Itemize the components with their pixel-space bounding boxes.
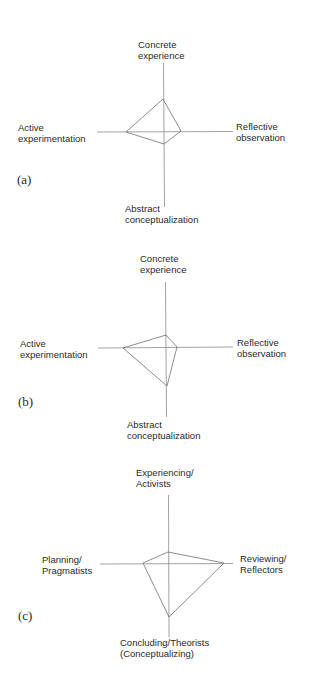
label-line: experimentation — [20, 349, 88, 360]
profile-polygon-b — [123, 335, 177, 386]
panel-letter-a: (a) — [17, 172, 31, 188]
label-line: Experiencing/ — [136, 467, 194, 478]
label-line: experimentation — [18, 133, 86, 144]
label-line: Active — [20, 338, 88, 349]
label-bottom-c: Concluding/Theorists (Conceptualizing) — [120, 637, 209, 659]
label-top-c: Experiencing/ Activists — [136, 467, 194, 489]
label-line: Concluding/Theorists — [120, 637, 209, 648]
label-line: Abstract — [127, 419, 200, 430]
label-bottom-b: Abstract conceptualization — [127, 419, 200, 441]
panel-letter-c: (c) — [18, 608, 32, 624]
label-right-c: Reviewing/ Reflectors — [240, 553, 286, 575]
label-left-b: Active experimentation — [20, 338, 88, 360]
profile-polygon-a — [126, 99, 181, 144]
label-line: Pragmatists — [42, 565, 92, 576]
label-line: Reviewing/ — [240, 553, 286, 564]
label-line: experience — [140, 264, 186, 275]
label-left-c: Planning/ Pragmatists — [42, 554, 92, 576]
label-bottom-a: Abstract conceptualization — [125, 203, 198, 225]
label-line: Reflective — [236, 121, 285, 132]
label-line: observation — [237, 348, 286, 359]
label-line: Abstract — [125, 203, 198, 214]
label-right-a: Reflective observation — [236, 121, 285, 143]
vertical-axis-a — [164, 63, 165, 207]
panel-letter-b: (b) — [18, 394, 33, 410]
label-right-b: Reflective observation — [237, 337, 286, 359]
label-line: conceptualization — [125, 214, 198, 225]
profile-polygon-c — [143, 552, 224, 617]
label-line: Activists — [136, 478, 194, 489]
label-line: Concrete — [140, 253, 186, 264]
label-line: Planning/ — [42, 554, 92, 565]
label-line: conceptualization — [127, 430, 200, 441]
label-line: Reflective — [237, 337, 286, 348]
label-line: observation — [236, 132, 285, 143]
label-line: Concrete — [138, 39, 184, 50]
label-line: Reflectors — [240, 564, 286, 575]
label-line: (Conceptualizing) — [120, 648, 209, 659]
horizontal-axis-c — [100, 564, 233, 565]
vertical-axis-b — [166, 282, 167, 417]
label-line: experience — [138, 50, 184, 61]
label-line: Active — [18, 122, 86, 133]
label-left-a: Active experimentation — [18, 122, 86, 144]
label-top-a: Concrete experience — [138, 39, 184, 61]
horizontal-axis-b — [98, 347, 233, 348]
horizontal-axis-a — [97, 132, 233, 133]
label-top-b: Concrete experience — [140, 253, 186, 275]
